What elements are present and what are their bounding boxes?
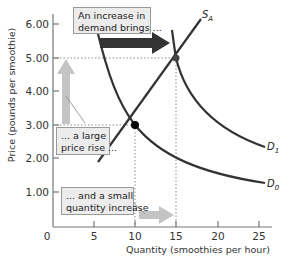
y-tick-6: 6.00 [26, 18, 49, 30]
callout-price-rise-line1: ... a large [61, 130, 105, 142]
y-axis-title: Price (pounds per smoothie) [6, 28, 17, 162]
y-tick-1: 1.00 [26, 186, 49, 198]
callout-quantity-increase-line1: ... and a small [66, 190, 129, 202]
supply-demand-chart: 6.00 5.00 4.00 3.00 2.00 1.00 0 5 10 15 … [0, 0, 288, 262]
x-tick-15: 15 [169, 230, 182, 242]
callout-demand-increase-line1: An increase in [78, 10, 146, 22]
y-tick-3: 3.00 [26, 119, 49, 131]
supply-label-sa: SA [202, 9, 213, 23]
x-tick-labels: 0 5 10 15 20 25 [44, 230, 266, 242]
x-tick-25: 25 [252, 230, 265, 242]
y-tick-5: 5.00 [26, 52, 49, 64]
new-equilibrium-point [173, 55, 180, 62]
initial-equilibrium-point [131, 121, 139, 129]
demand-label-d1: D1 [267, 141, 279, 155]
demand-shift-arrow [100, 32, 170, 54]
x-tick-10: 10 [128, 230, 141, 242]
demand-curve-d0 [97, 30, 265, 183]
callout-demand-increase-line2: demand brings ... [78, 22, 146, 34]
y-tick-labels: 6.00 5.00 4.00 3.00 2.00 1.00 [26, 18, 49, 198]
y-tick-2: 2.00 [26, 152, 49, 164]
callout-price-rise: ... a large price rise ... [56, 127, 110, 155]
callout-quantity-increase-line2: quantity increase [66, 202, 129, 214]
x-axis-title: Quantity (smoothies per hour) [126, 244, 270, 255]
x-tick-5: 5 [91, 230, 98, 242]
x-tick-0: 0 [44, 230, 51, 242]
y-tick-4: 4.00 [26, 85, 49, 97]
demand-label-d0: D0 [267, 178, 280, 192]
callout-demand-increase: An increase in demand brings ... [73, 7, 151, 34]
demand-curve-d1 [172, 30, 265, 147]
x-tick-20: 20 [211, 230, 224, 242]
callout-price-rise-line2: price rise ... [61, 142, 105, 154]
callout-quantity-increase: ... and a small quantity increase [61, 187, 134, 215]
price-rise-arrow [57, 59, 75, 124]
